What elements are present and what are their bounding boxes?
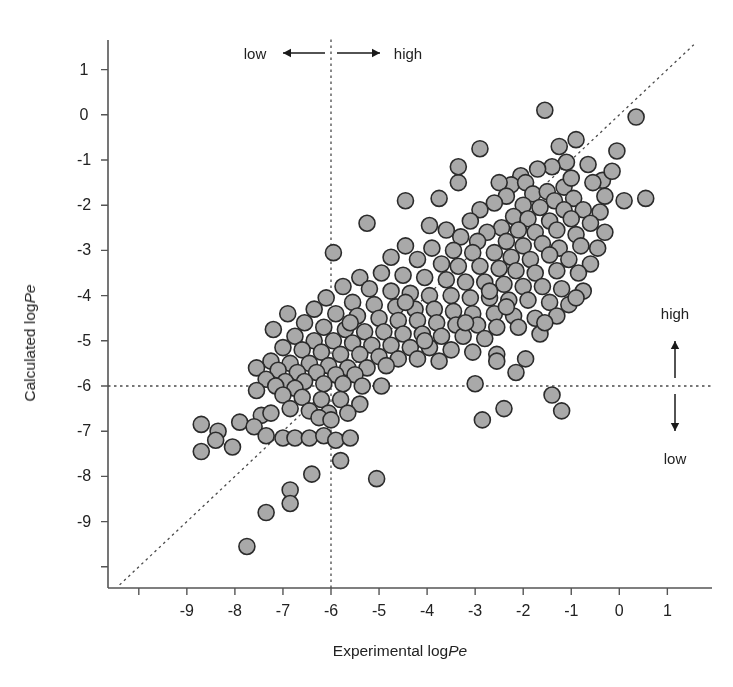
y-tick-label: -8 [77, 467, 91, 485]
y-tick-label: -5 [77, 332, 91, 350]
y-tick-label: 0 [80, 106, 89, 124]
y-tick-label: -7 [77, 422, 91, 440]
x-tick-label: -9 [180, 602, 194, 620]
x-axis-title-text: Experimental log [333, 642, 448, 659]
x-tick-label: -4 [420, 602, 434, 620]
x-tick-label: 1 [663, 602, 672, 620]
y-tick-label: -4 [77, 287, 91, 305]
x-tick-label: -5 [372, 602, 386, 620]
x-tick-label: -6 [324, 602, 338, 620]
plot-canvas [0, 0, 733, 687]
x-tick-label: 0 [615, 602, 624, 620]
y-axis-title: Calculated logPe [21, 284, 39, 401]
y-tick-label: -2 [77, 196, 91, 214]
annotation-top-low: low [244, 45, 267, 62]
x-tick-label: -3 [468, 602, 482, 620]
y-tick-label: -6 [77, 377, 91, 395]
scatter-plot-figure: Calculated logPe Experimental logPe -9-8… [0, 0, 733, 687]
x-axis-title-italic: Pe [448, 642, 467, 659]
x-tick-label: -8 [228, 602, 242, 620]
x-axis-title: Experimental logPe [333, 642, 467, 660]
y-axis-title-italic: Pe [21, 284, 38, 303]
x-tick-label: -2 [516, 602, 530, 620]
annotation-right-high: high [661, 305, 689, 322]
y-tick-label: -9 [77, 513, 91, 531]
x-tick-label: -7 [276, 602, 290, 620]
annotation-top-high: high [394, 45, 422, 62]
y-tick-label: -3 [77, 241, 91, 259]
y-axis-title-text: Calculated log [21, 303, 38, 401]
y-tick-label: -1 [77, 151, 91, 169]
y-tick-label: 1 [80, 61, 89, 79]
annotation-right-low: low [664, 450, 687, 467]
x-tick-label: -1 [564, 602, 578, 620]
